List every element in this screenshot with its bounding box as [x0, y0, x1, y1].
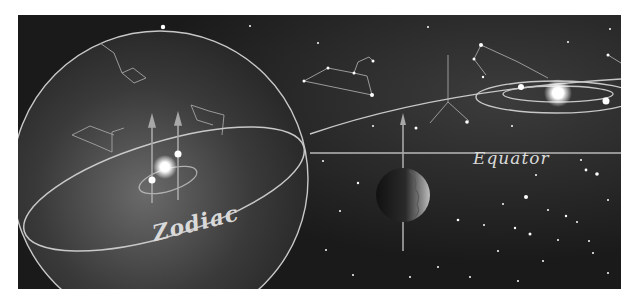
planet-dot [175, 151, 182, 158]
equator-label: Equator [473, 148, 550, 168]
zodiac-diagram-figure: Zodiac Equator [18, 15, 621, 289]
planet-dot [149, 177, 156, 184]
